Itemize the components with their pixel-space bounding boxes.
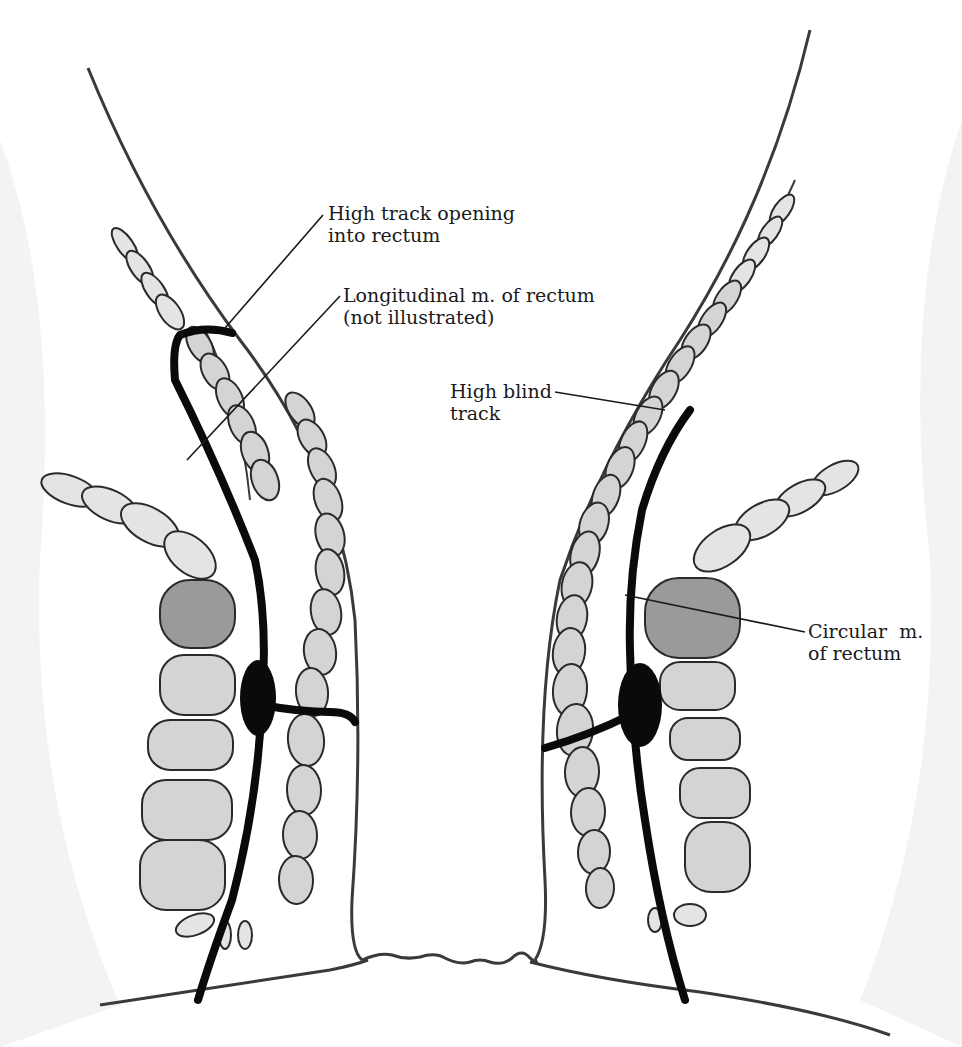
right-rectal-wall bbox=[530, 30, 890, 1035]
label-high-blind-track: High blind track bbox=[450, 380, 552, 424]
left-abscess bbox=[240, 660, 276, 736]
left-rectal-wall bbox=[37, 68, 368, 1005]
left-perianal-skin bbox=[100, 960, 368, 1005]
label-longitudinal-muscle: Longitudinal m. of rectum (not illustrat… bbox=[343, 284, 595, 328]
leader-high-track-opening bbox=[225, 215, 323, 328]
right-soft-tissue bbox=[860, 120, 962, 1047]
anal-canal-line bbox=[362, 953, 537, 963]
label-high-track-opening-line2: into rectum bbox=[328, 224, 515, 246]
label-high-blind-track-line2: track bbox=[450, 402, 552, 424]
left-dark-bundle bbox=[160, 580, 235, 648]
diagram-artwork bbox=[0, 0, 962, 1047]
label-longitudinal-muscle-line2: (not illustrated) bbox=[343, 306, 595, 328]
right-dark-bundle bbox=[645, 578, 740, 658]
label-high-blind-track-line1: High blind bbox=[450, 380, 552, 402]
label-circular-muscle-line2: of rectum bbox=[808, 642, 923, 664]
right-perianal-skin bbox=[530, 962, 890, 1035]
right-sphincter-bundles bbox=[645, 454, 864, 932]
anatomy-diagram: High track opening into rectum Longitudi… bbox=[0, 0, 962, 1047]
label-longitudinal-muscle-line1: Longitudinal m. of rectum bbox=[343, 284, 595, 306]
label-high-track-opening: High track opening into rectum bbox=[328, 202, 515, 246]
right-abscess bbox=[618, 663, 662, 747]
label-circular-muscle-line1: Circular m. bbox=[808, 620, 923, 642]
label-circular-muscle: Circular m. of rectum bbox=[808, 620, 923, 664]
left-soft-tissue bbox=[0, 140, 120, 1047]
label-high-track-opening-line1: High track opening bbox=[328, 202, 515, 224]
